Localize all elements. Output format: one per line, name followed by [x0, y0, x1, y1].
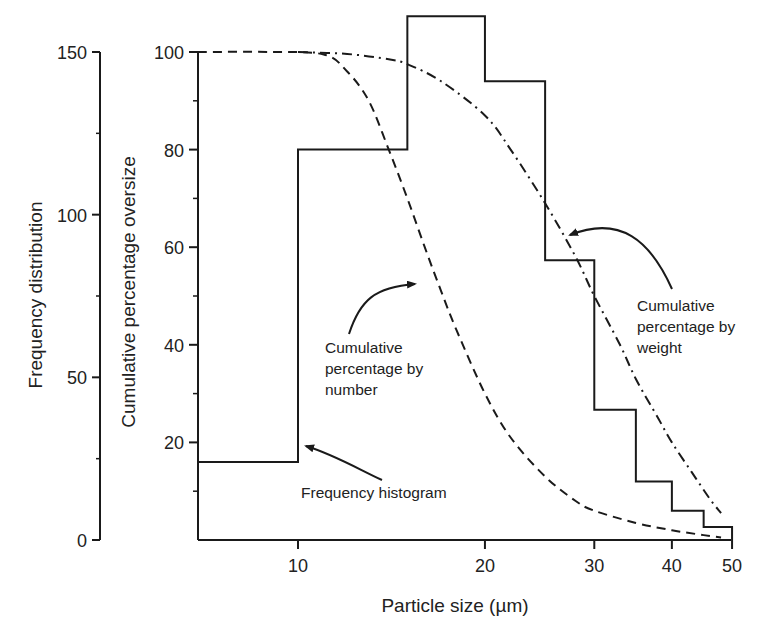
cumulative-weight-curve: [298, 52, 721, 513]
annotation-frequency-histogram: Frequency histogram: [301, 484, 447, 501]
cumulative-tick-label: 80: [164, 141, 184, 161]
particle-size-chart: 050100150 20406080100 1020304050 Frequen…: [0, 0, 763, 629]
x-tick-label: 40: [662, 556, 682, 576]
cumulative-number-curve: [198, 52, 721, 538]
frequency-tick-label: 0: [77, 531, 87, 551]
frequency-axis: 050100150: [57, 43, 100, 551]
cumulative-tick-label: 20: [164, 433, 184, 453]
cumulative-tick-label: 40: [164, 336, 184, 356]
cumulative-axis-title: Cumulative percentage oversize: [118, 156, 139, 427]
arrow-cumulative-weight: [570, 228, 672, 289]
frequency-tick-label: 150: [57, 43, 87, 63]
x-tick-label: 30: [584, 556, 604, 576]
particle-size-axis: 1020304050: [198, 540, 742, 576]
x-tick-label: 10: [288, 556, 308, 576]
arrow-frequency-histogram: [306, 446, 382, 480]
frequency-tick-label: 50: [67, 368, 87, 388]
annotation-cumulative-number: Cumulative percentage by number: [325, 339, 428, 398]
x-tick-label: 50: [722, 556, 742, 576]
cumulative-tick-label: 100: [154, 43, 184, 63]
annotation-cumulative-weight: Cumulative percentage by weight: [636, 297, 740, 356]
frequency-axis-title: Frequency distribution: [25, 202, 46, 389]
x-axis-title: Particle size (µm): [381, 595, 528, 616]
x-tick-label: 20: [475, 556, 495, 576]
frequency-tick-label: 100: [57, 206, 87, 226]
series-layer: [198, 16, 732, 540]
frequency-histogram: [198, 16, 732, 540]
cumulative-tick-label: 60: [164, 238, 184, 258]
arrow-cumulative-number: [349, 284, 415, 334]
cumulative-percentage-axis: 20406080100: [154, 43, 198, 540]
